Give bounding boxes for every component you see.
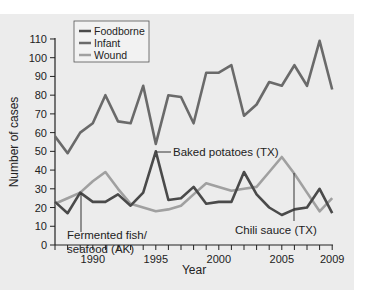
y-tick-label: 80 — [35, 89, 47, 101]
x-tick-label: 1995 — [144, 253, 168, 265]
x-axis-title: Year — [182, 263, 206, 277]
x-tick-label: 2000 — [207, 253, 231, 265]
foodborne-series-line — [55, 151, 332, 215]
y-tick-label: 100 — [29, 52, 47, 64]
y-tick-label: 70 — [35, 108, 47, 120]
x-tick-label: 2009 — [320, 253, 344, 265]
legend: Foodborne Infant Wound — [74, 21, 149, 62]
y-tick-label: 10 — [35, 220, 47, 232]
y-ticks: 0102030405060708090100110 — [29, 33, 55, 251]
y-tick-label: 40 — [35, 164, 47, 176]
legend-label-infant: Infant — [94, 37, 120, 49]
y-tick-label: 60 — [35, 127, 47, 139]
y-axis-title: Number of cases — [7, 97, 21, 188]
legend-label-wound: Wound — [94, 49, 127, 61]
legend-label-foodborne: Foodborne — [94, 25, 145, 37]
annotation-fermented-fish-line1: Fermented fish/ — [67, 229, 148, 241]
annotation-fermented-fish-line2: seafood (AK) — [67, 243, 134, 255]
annotation-baked-potatoes: Baked potatoes (TX) — [173, 146, 279, 158]
annotation-chili-sauce: Chili sauce (TX) — [235, 224, 317, 236]
y-tick-label: 20 — [35, 202, 47, 214]
y-tick-label: 90 — [35, 70, 47, 82]
y-tick-label: 110 — [29, 33, 47, 45]
y-tick-label: 50 — [35, 145, 47, 157]
line-chart: 0102030405060708090100110 19901995200020… — [0, 0, 366, 296]
y-tick-label: 30 — [35, 183, 47, 195]
y-tick-label: 0 — [41, 239, 47, 251]
x-tick-label: 2005 — [270, 253, 294, 265]
